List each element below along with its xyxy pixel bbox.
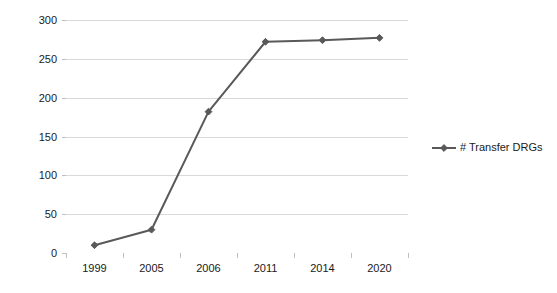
- y-tick-label: 300: [39, 14, 57, 26]
- x-tick-label: 2005: [139, 262, 163, 274]
- y-tick-label: 250: [39, 53, 57, 65]
- y-tick-label: 100: [39, 169, 57, 181]
- chart-canvas: 300250200150100500 199920052006201120142…: [0, 0, 557, 293]
- line-chart: 300250200150100500 199920052006201120142…: [0, 0, 557, 293]
- y-tick-label: 50: [45, 208, 57, 220]
- y-tick-label: 200: [39, 92, 57, 104]
- y-tick-label: 0: [51, 247, 57, 259]
- x-tick-label: 2014: [310, 262, 334, 274]
- x-tick-label: 2006: [196, 262, 220, 274]
- x-tick-label: 2011: [254, 262, 278, 274]
- x-tick-label: 2020: [367, 262, 391, 274]
- x-tick-label: 1999: [82, 262, 106, 274]
- legend-entry-label: # Transfer DRGs: [460, 141, 543, 153]
- y-tick-label: 150: [39, 131, 57, 143]
